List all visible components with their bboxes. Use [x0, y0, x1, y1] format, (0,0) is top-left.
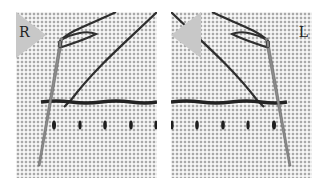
panel-label-l: L [299, 24, 308, 40]
thread-loop-lower [59, 32, 96, 48]
running-stitch-dashes [171, 121, 276, 130]
thread-loop-lower [232, 32, 269, 48]
panel-label-r: R [19, 24, 30, 40]
backstitch-line [41, 101, 157, 103]
badge-triangle [171, 12, 201, 58]
panel-left-handed: L [171, 12, 312, 178]
panel-right-handed: R [16, 12, 157, 178]
thread-strand [64, 12, 157, 107]
backstitch-line [171, 101, 287, 103]
running-stitch-dashes [52, 121, 157, 130]
